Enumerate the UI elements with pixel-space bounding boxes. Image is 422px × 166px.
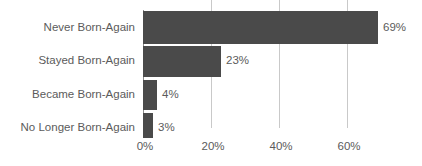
value-label-became-born-again: 4% (162, 88, 179, 100)
bar-no-longer-born-again (143, 113, 153, 138)
category-label-stayed-born-again: Stayed Born-Again (0, 54, 135, 66)
x-tick-label-60: 60% (337, 140, 360, 152)
category-label-no-longer-born-again: No Longer Born-Again (0, 121, 135, 133)
category-label-became-born-again: Became Born-Again (0, 88, 135, 100)
bar-chart: Never Born-Again 69% Stayed Born-Again 2… (0, 0, 422, 166)
value-label-never-born-again: 69% (383, 21, 406, 33)
x-tick-label-40: 40% (269, 140, 292, 152)
category-label-never-born-again: Never Born-Again (0, 21, 135, 33)
value-label-stayed-born-again: 23% (226, 54, 249, 66)
x-tick-label-0: 0% (137, 140, 154, 152)
x-tick-label-20: 20% (201, 140, 224, 152)
value-label-no-longer-born-again: 3% (158, 121, 175, 133)
bar-became-born-again (143, 80, 157, 110)
bar-never-born-again (143, 11, 378, 44)
bar-stayed-born-again (143, 46, 221, 77)
